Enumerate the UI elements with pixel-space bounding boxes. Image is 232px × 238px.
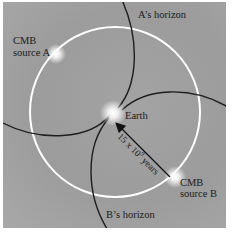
source-b-label-line2: source B [180, 188, 217, 199]
a-horizon-curve [118, 0, 134, 108]
a-horizon-label: A’s horizon [138, 9, 187, 20]
source-a-label-line2: source A [13, 47, 50, 58]
diagram-stage: CMB source A A’s horizon Earth CMB sourc… [0, 0, 232, 238]
earth-label: Earth [125, 110, 148, 121]
distance-unit: years [138, 154, 161, 177]
earth-glow [100, 100, 126, 126]
diagram-canvas: CMB source A A’s horizon Earth CMB sourc… [0, 0, 232, 238]
source-b-label-line1: CMB [180, 177, 203, 188]
left-horizon-curve [3, 115, 110, 136]
right-horizon-curve [122, 92, 228, 110]
source-a-label-line1: CMB [13, 35, 36, 46]
distance-label: 15 x 109 years [116, 130, 163, 177]
b-horizon-label: B’s horizon [106, 209, 155, 220]
svg-text:15 x 109 years: 15 x 109 years [116, 130, 163, 177]
